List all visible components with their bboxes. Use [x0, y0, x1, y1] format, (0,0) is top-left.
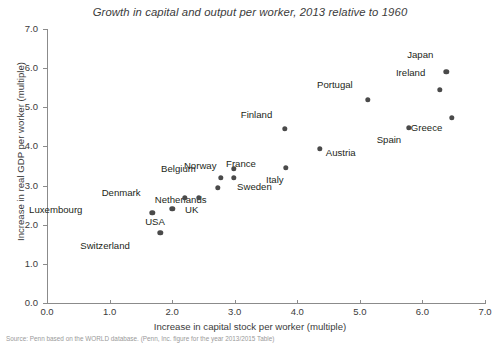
- chart-title: Growth in capital and output per worker,…: [0, 6, 500, 18]
- data-point-label: Luxembourg: [29, 205, 82, 215]
- data-point-label: Sweden: [237, 182, 272, 192]
- x-tick-label: 5.0: [340, 307, 380, 317]
- x-tick-label: 7.0: [465, 307, 500, 317]
- data-point-label: Denmark: [102, 188, 141, 198]
- data-point-label: Japan: [407, 50, 433, 60]
- x-tick-mark: [485, 300, 486, 304]
- data-point-label: Finland: [241, 110, 272, 120]
- data-point-label: Greece: [411, 123, 442, 133]
- y-axis-title: Increase in real GDP per worker (multipl…: [15, 12, 26, 292]
- data-point-label: UK: [185, 205, 198, 215]
- x-tick-label: 0.0: [27, 307, 67, 317]
- data-point-label: Ireland: [396, 68, 425, 78]
- data-point-label: Austria: [326, 148, 356, 158]
- x-tick-label: 2.0: [152, 307, 192, 317]
- data-point-label: USA: [145, 217, 165, 227]
- data-point-label: Portugal: [317, 80, 353, 90]
- source-note: Source: Penn based on the WORLD database…: [6, 335, 274, 342]
- data-point-label: Norway: [184, 161, 217, 171]
- data-point-label: Spain: [377, 135, 402, 145]
- scatter-chart: Growth in capital and output per worker,…: [0, 0, 500, 343]
- data-point-label: Switzerland: [80, 241, 130, 251]
- x-tick-label: 4.0: [277, 307, 317, 317]
- x-tick-label: 1.0: [90, 307, 130, 317]
- x-tick-label: 6.0: [402, 307, 442, 317]
- x-axis-title: Increase in capital stock per worker (mu…: [0, 321, 500, 332]
- x-tick-label: 3.0: [215, 307, 255, 317]
- x-axis-line: [47, 303, 486, 304]
